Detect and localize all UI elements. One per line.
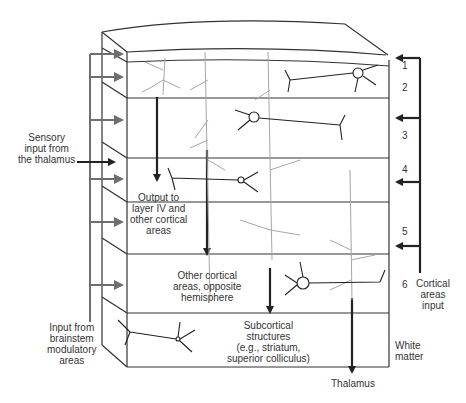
subcortical-label: Subcortical structures (e.g., striatum, … — [227, 320, 310, 364]
cortical-input-arrows — [397, 58, 420, 273]
sensory-input-label: Sensory input from the thalamus — [18, 132, 75, 165]
gray-neurons — [142, 52, 375, 300]
layer-1-label: 1 — [402, 60, 408, 71]
layer-3-label: 3 — [402, 130, 408, 141]
cortical-input-label: Cortical areas input — [416, 278, 450, 311]
other-cortical-label: Other cortical areas, opposite hemispher… — [173, 270, 241, 303]
layer-6-label: 6 — [402, 279, 408, 290]
thalamus-label: Thalamus — [331, 378, 375, 389]
output-layer4-label: Output to layer IV and other cortical ar… — [130, 192, 187, 236]
layer-2-label: 2 — [402, 82, 408, 93]
brainstem-input-label: Input from brainstem modulatory areas — [47, 322, 96, 366]
layer-4-label: 4 — [402, 164, 408, 175]
layer-5-label: 5 — [402, 226, 408, 237]
white-matter-label: White matter — [395, 340, 423, 362]
